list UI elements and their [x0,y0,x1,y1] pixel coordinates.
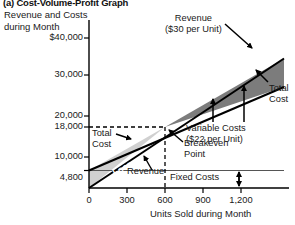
y-tick-label-30000: 30,000 [55,69,83,79]
revenue-top-arrow [225,24,252,48]
x-tick-label-300: 300 [112,195,142,205]
x-axis-ticks [89,188,241,193]
y-tick-label-10000: 10,000 [55,151,83,161]
total-cost-right-annotation: Total Cost [269,83,289,104]
revenue-top-line1: Revenue [175,13,212,23]
variable-costs-line1: Variable Costs [186,123,246,133]
total-cost-left-annotation: Total Cost [92,128,112,149]
profit-region [165,59,284,128]
x-tick-label-900: 900 [188,195,218,205]
x-tick-label-0: 0 [79,195,99,205]
revenue-top-line2: ($30 per Unit) [165,24,222,34]
total-cost-right-line1: Total [269,83,289,93]
breakeven-line1: Breakeven [184,138,228,148]
y-tick-label-18000: 18,000 [55,121,83,131]
x-tick-label-600: 600 [150,195,180,205]
fixed-costs-annotation: Fixed Costs [170,172,219,183]
y-tick-label-40000: $40,000 [49,32,83,42]
y-tick-label-20000: 20,000 [55,110,83,120]
total-cost-left-line1: Total [92,128,112,138]
total-cost-left-line2: Cost [92,139,111,149]
chart-canvas: Profit Loss [0,0,295,225]
breakeven-line2: Point [184,149,205,159]
total-cost-left-arrow [116,134,131,139]
y-tick-label-4800: 4,800 [60,172,83,182]
revenue-lower-annotation: Revenue [127,166,164,177]
x-tick-label-1200: 1,200 [224,195,258,205]
revenue-top-annotation: Revenue ($30 per Unit) [165,13,222,34]
x-axis-title: Units Sold during Month [150,208,251,219]
breakeven-annotation: Breakeven Point [184,138,228,159]
y-axis-ticks [84,38,89,171]
total-cost-right-line2: Cost [269,94,288,104]
cvp-chart-figure: (a) Cost-Volume-Profit Graph Revenue and… [0,0,295,225]
